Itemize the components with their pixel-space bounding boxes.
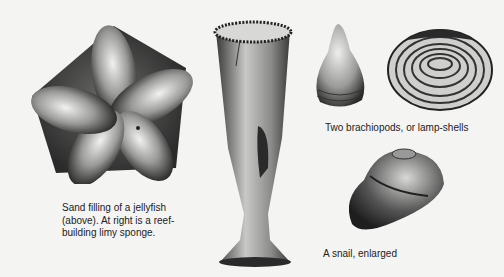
caption-brachiopods: Two brachiopods, or lamp-shells (325, 122, 468, 135)
brachiopod-ribbed-illustration (385, 20, 495, 112)
jellyfish-fossil-illustration (26, 18, 194, 184)
caption-line: Sand filling of a jellyfish (62, 202, 174, 215)
snail-fossil-illustration (342, 144, 452, 236)
caption-line: (above). At right is a reef- (62, 215, 174, 228)
caption-line: building limy sponge. (62, 227, 174, 240)
sponge-fossil-illustration (210, 18, 302, 277)
brachiopod-conical-illustration (312, 20, 368, 112)
caption-jellyfish-sponge: Sand filling of a jellyfish (above). At … (62, 202, 174, 240)
caption-snail: A snail, enlarged (323, 248, 397, 261)
